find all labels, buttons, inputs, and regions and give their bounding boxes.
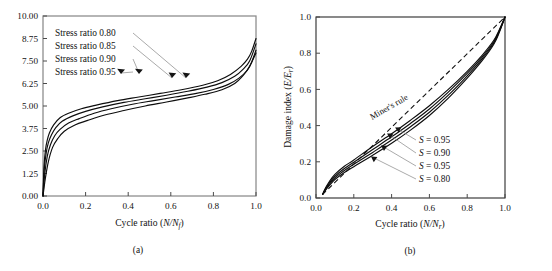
y-axis-ticks-b <box>316 17 320 198</box>
leader-arrow-b-0 <box>395 127 401 132</box>
y-tick-label: 2.50 <box>22 146 38 156</box>
leader-arrow-a-0 <box>182 73 190 78</box>
leader-line-b-3 <box>372 157 416 179</box>
chart-panel-a: 0.001.252.503.755.006.257.508.7510.00 0.… <box>0 0 276 271</box>
chart-panel-b: 0.00.20.40.60.81.0 0.00.20.40.60.81.0 Mi… <box>276 0 552 271</box>
figure-root: 0.001.252.503.755.006.257.508.7510.00 0.… <box>0 0 552 271</box>
x-axis-title-b: Cycle ratio (N/Nr) <box>375 218 444 231</box>
y-tick-label: 0.00 <box>22 191 38 201</box>
x-tick-label: 1.0 <box>499 203 511 213</box>
leader-arrow-a-2 <box>135 69 143 74</box>
x-tick-label: 0.2 <box>348 203 360 213</box>
reference-line-miner <box>323 17 505 194</box>
x-tick-label: 0.0 <box>310 203 322 213</box>
legend-item-a-1: Stress ratio 0.85 <box>55 41 116 51</box>
x-tick-label: 0.4 <box>386 203 398 213</box>
y-axis-tick-labels-a: 0.001.252.503.755.006.257.508.7510.00 <box>17 11 38 201</box>
panel-caption-b: (b) <box>405 246 416 257</box>
miner-rule-reference-line <box>323 17 505 194</box>
chart-a-svg: 0.001.252.503.755.006.257.508.7510.00 0.… <box>0 0 276 271</box>
panel-caption-a: (a) <box>133 245 143 256</box>
x-tick-label: 1.0 <box>250 201 262 211</box>
series-label-b-1: S = 0.90 <box>419 148 450 158</box>
legend-leader-lines-a <box>117 33 190 78</box>
x-axis-tick-labels-a: 0.00.20.40.60.81.0 <box>37 201 262 211</box>
y-tick-label: 6.25 <box>22 79 38 89</box>
miner-rule-annotation: Miner's rule <box>368 92 410 122</box>
x-axis-title-a: Cycle ratio (N/Nf) <box>115 217 184 230</box>
y-tick-label: 5.00 <box>22 101 38 111</box>
x-tick-label: 0.6 <box>424 203 436 213</box>
y-tick-label: 0.0 <box>300 193 312 203</box>
x-axis-ticks-b <box>316 194 505 198</box>
series-label-b-0: S = 0.95 <box>419 135 450 145</box>
leader-line-a-3 <box>121 72 133 73</box>
x-axis-tick-labels-b: 0.00.20.40.60.81.0 <box>310 203 511 213</box>
x-tick-label: 0.0 <box>37 201 49 211</box>
leader-arrow-a-1 <box>169 72 177 78</box>
x-tick-label: 0.2 <box>80 201 92 211</box>
x-tick-label: 0.8 <box>461 203 473 213</box>
legend-a: Stress ratio 0.80 Stress ratio 0.85 Stre… <box>55 28 116 77</box>
y-axis-title-b: Damage index (E/Er) <box>282 66 295 148</box>
y-tick-label: 0.6 <box>300 85 312 95</box>
y-tick-label: 1.25 <box>22 169 38 179</box>
legend-item-a-3: Stress ratio 0.95 <box>55 67 116 77</box>
series-labels-b: S = 0.95 S = 0.90 S = 0.95 S = 0.80 <box>419 135 450 184</box>
y-tick-label: 10.00 <box>17 11 38 21</box>
y-tick-label: 1.0 <box>300 12 312 22</box>
series-label-b-3: S = 0.80 <box>419 174 450 184</box>
x-tick-label: 0.6 <box>165 201 177 211</box>
legend-item-a-0: Stress ratio 0.80 <box>55 28 116 38</box>
y-axis-tick-labels-b: 0.00.20.40.60.81.0 <box>300 12 312 203</box>
leader-line-b-2 <box>382 146 416 166</box>
y-tick-label: 0.2 <box>300 157 312 167</box>
x-tick-label: 0.4 <box>122 201 134 211</box>
y-tick-label: 3.75 <box>22 124 38 134</box>
y-tick-label: 7.50 <box>22 56 38 66</box>
series-label-b-2: S = 0.95 <box>419 161 450 171</box>
y-tick-label: 0.4 <box>300 121 312 131</box>
chart-b-svg: 0.00.20.40.60.81.0 0.00.20.40.60.81.0 Mi… <box>276 0 552 271</box>
y-tick-label: 0.8 <box>300 48 312 58</box>
legend-item-a-2: Stress ratio 0.90 <box>55 54 116 64</box>
leader-arrow-a-3 <box>117 69 125 74</box>
y-tick-label: 8.75 <box>22 34 38 44</box>
x-tick-label: 0.8 <box>208 201 220 211</box>
